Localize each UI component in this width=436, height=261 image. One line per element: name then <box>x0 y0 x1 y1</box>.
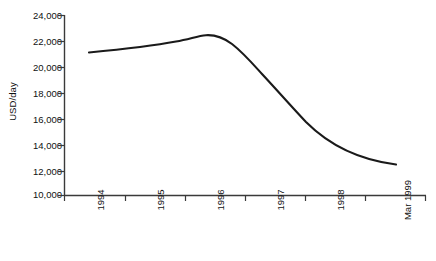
data-line-usd-per-day <box>89 35 396 164</box>
x-axis-tick-mar-1999: Mar 1999 <box>396 200 408 260</box>
x-axis-tick-1997: 1997 <box>269 200 281 260</box>
y-axis <box>58 15 65 196</box>
x-axis-tick-1994: 1994 <box>89 200 101 260</box>
x-axis-tick-1995: 1995 <box>149 200 161 260</box>
x-axis-tick-1998: 1998 <box>329 200 341 260</box>
x-axis-tick-1996: 1996 <box>209 200 221 260</box>
x-axis <box>64 196 426 202</box>
line-chart: USD/day 24,000 22,000 20,000 18,000 16,0… <box>0 0 436 261</box>
